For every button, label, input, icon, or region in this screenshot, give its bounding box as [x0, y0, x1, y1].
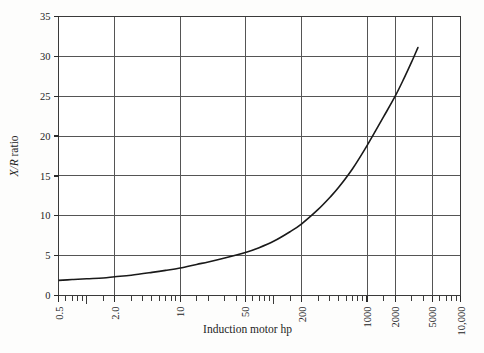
- x-axis-title: Induction motor hp: [203, 323, 292, 336]
- x-tick-label: 5000: [427, 307, 438, 328]
- x-tick-label: 0.5: [54, 307, 65, 320]
- x-tick-label: 1000: [362, 307, 373, 328]
- y-tick-label: 20: [40, 131, 51, 142]
- x-tick-label: 10: [175, 307, 186, 318]
- y-tick-label: 15: [40, 171, 51, 182]
- chart-svg: 0.52.0105020010002000500010,000051015202…: [0, 0, 484, 353]
- x-tick-label: 10,000: [456, 307, 467, 336]
- y-tick-label: 30: [40, 51, 51, 62]
- y-tick-label: 35: [40, 11, 51, 22]
- figure-container: 0.52.0105020010002000500010,000051015202…: [0, 0, 484, 353]
- x-tick-label: 2000: [390, 307, 401, 328]
- y-tick-label: 5: [45, 250, 50, 261]
- y-tick-label: 10: [40, 210, 51, 221]
- y-tick-label: 25: [40, 91, 51, 102]
- x-tick-label: 2.0: [110, 307, 121, 320]
- x-tick-label: 50: [240, 307, 251, 318]
- plot-background: [59, 17, 461, 296]
- x-tick-label: 200: [297, 307, 308, 323]
- y-tick-label: 0: [45, 290, 50, 301]
- y-axis-title: X/R ratio: [8, 135, 20, 177]
